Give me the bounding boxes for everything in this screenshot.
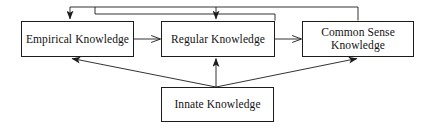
node-innate-knowledge-label: Innate Knowledge xyxy=(171,98,263,111)
node-empirical-knowledge-label: Empirical Knowledge xyxy=(23,33,132,46)
edge-regular-feedback-to-regular xyxy=(95,7,275,21)
node-innate-knowledge: Innate Knowledge xyxy=(161,87,274,122)
knowledge-diagram: Empirical Knowledge Regular Knowledge Co… xyxy=(0,0,432,129)
node-common-sense-knowledge: Common Sense Knowledge xyxy=(302,21,414,57)
edge-innate-to-common-sense xyxy=(216,59,357,88)
node-regular-knowledge: Regular Knowledge xyxy=(161,21,275,57)
edge-innate-to-empirical xyxy=(72,59,216,88)
node-regular-knowledge-label: Regular Knowledge xyxy=(168,33,268,46)
node-empirical-knowledge: Empirical Knowledge xyxy=(21,21,134,57)
node-common-sense-knowledge-label: Common Sense Knowledge xyxy=(318,26,398,52)
